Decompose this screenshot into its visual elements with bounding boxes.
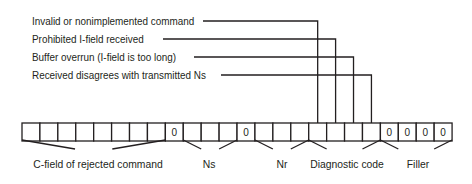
bit-cell — [309, 123, 327, 141]
bit-cell — [94, 123, 112, 141]
callout-label-buffer-overrun: Buffer overrun (I-field is too long) — [32, 51, 176, 63]
group-label-diagnostic-code: Diagnostic code — [310, 158, 384, 170]
bit-value: 0 — [404, 127, 410, 138]
bit-cell — [327, 123, 345, 141]
bit-value: 0 — [440, 127, 446, 138]
bit-cell — [22, 123, 40, 141]
bit-cell — [76, 123, 94, 141]
bit-value: 0 — [243, 127, 249, 138]
bit-value: 0 — [172, 127, 178, 138]
bit-cells: 000000 — [22, 123, 452, 141]
bit-value: 0 — [387, 127, 393, 138]
bit-value: 0 — [422, 127, 428, 138]
bit-cell — [273, 123, 291, 141]
bit-cell — [58, 123, 76, 141]
bit-cell — [112, 123, 130, 141]
callout-leader-line — [203, 21, 318, 123]
callout-leader-line — [221, 75, 371, 123]
group-label-nr: Nr — [277, 158, 288, 170]
bit-cell — [40, 123, 58, 141]
callout-leader-line — [194, 57, 354, 123]
frame-format-diagram: 000000 — [0, 0, 472, 184]
callout-label-prohibited-ifield: Prohibited I-field received — [32, 33, 144, 45]
bit-cell — [130, 123, 148, 141]
group-label-filler: Filler — [407, 158, 429, 170]
group-label-ns: Ns — [203, 158, 216, 170]
callout-label-invalid-command: Invalid or nonimplemented command — [32, 15, 194, 27]
group-label-c-field: C-field of rejected command — [33, 158, 162, 170]
bit-cell — [201, 123, 219, 141]
bit-cell — [345, 123, 363, 141]
callout-label-ns-disagree: Received disagrees with transmitted Ns — [32, 69, 206, 81]
bit-cell — [147, 123, 165, 141]
bit-cell — [219, 123, 237, 141]
bit-cell — [255, 123, 273, 141]
bit-cell — [183, 123, 201, 141]
callout-leader-line — [163, 39, 336, 123]
bit-cell — [362, 123, 380, 141]
bit-cell — [291, 123, 309, 141]
